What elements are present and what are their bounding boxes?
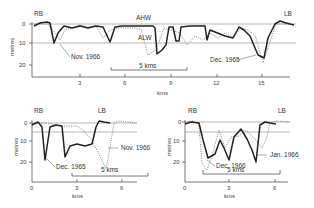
y-tick-0: 0 <box>24 120 28 126</box>
bl-dec-1965-label: Dec. 1965 <box>56 163 86 170</box>
bottom-right-cross-section-chart: 0 10 20 metres 0 3 6 kms RB LB 5 kms Dec… <box>166 107 299 199</box>
x-axis-label: kms <box>224 193 235 199</box>
y-tick-20: 20 <box>19 62 26 68</box>
x-tick-0: 0 <box>183 185 187 191</box>
lb-label: LB <box>98 107 106 114</box>
x-tick-9: 9 <box>169 80 173 86</box>
y-tick-10: 10 <box>19 40 26 46</box>
x-tick-15: 15 <box>258 80 265 86</box>
bl-nov-1966-label: Nov. 1966 <box>121 144 151 151</box>
br-dec-1966-label: Dec. 1966 <box>216 162 246 169</box>
y-axis-label: metres <box>9 38 15 56</box>
y-axis-label: metres <box>13 138 19 156</box>
y-axis-label: metres <box>166 138 172 156</box>
x-tick-3: 3 <box>75 185 79 191</box>
y-tick-10: 10 <box>173 138 180 144</box>
x-tick-12: 12 <box>213 80 220 86</box>
scale-bar <box>72 173 148 176</box>
x-tick-0: 0 <box>30 185 34 191</box>
x-tick-6: 6 <box>120 185 124 191</box>
y-tick-20: 20 <box>173 159 180 165</box>
x-tick-6: 6 <box>273 185 277 191</box>
x-axis-label: kms <box>72 193 83 199</box>
scale-bar-label: 5 kms <box>139 62 157 69</box>
x-axis-label: kms <box>157 90 168 96</box>
rb-label: RB <box>34 107 43 114</box>
lb-label: LB <box>278 107 286 114</box>
y-tick-0: 0 <box>22 21 26 27</box>
y-tick-10: 10 <box>20 138 27 144</box>
x-tick-3: 3 <box>227 185 231 191</box>
series-dec-1965 <box>32 121 110 160</box>
top-cross-section-chart: 0 10 20 metres 3 6 9 12 15 kms RB LB AHW… <box>9 10 296 96</box>
bottom-left-cross-section-chart: 0 10 20 metres 0 3 6 kms RB LB 5 kms Dec… <box>13 107 151 199</box>
alw-label: ALW <box>138 34 152 41</box>
series-dec-1966 <box>185 122 276 162</box>
y-tick-20: 20 <box>20 159 27 165</box>
lb-label: LB <box>284 10 292 17</box>
scale-bar-label: 5 kms <box>101 166 119 173</box>
y-tick-0: 0 <box>178 119 182 125</box>
river-cross-sections-figure: 0 10 20 metres 3 6 9 12 15 kms RB LB AHW… <box>0 0 314 208</box>
br-jan-1966-label: Jan. 1966 <box>270 151 299 158</box>
rb-label: RB <box>34 10 43 17</box>
rb-label: RB <box>188 107 197 114</box>
x-tick-6: 6 <box>123 80 127 86</box>
top-dec-1965-label: Dec. 1965 <box>210 56 240 63</box>
x-tick-3: 3 <box>78 80 82 86</box>
ahw-label: AHW <box>136 14 152 21</box>
top-nov-1966-label: Nov. 1966 <box>71 53 101 60</box>
